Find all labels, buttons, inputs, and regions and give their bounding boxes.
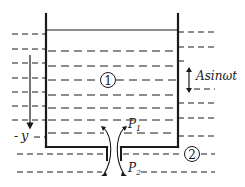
streamline-arrowheads [101,126,127,176]
tank [46,14,178,160]
y-axis-label: y [20,128,29,143]
inside-fluid-lines [48,51,176,133]
arrow-up-icon [186,67,192,72]
pressure-p1-label: P1 [127,117,141,133]
arrow-down-icon [186,88,192,93]
oscillation-label: Asinωt [195,69,237,83]
outside-fluid-lines-right [123,32,215,172]
arrow-bottom-right-icon [121,172,127,176]
tank-diagram: 1 2 Asinωt - y P1 P2 [0,0,245,187]
outside-fluid-lines-left [12,34,105,172]
pressure-p2-label: P2 [127,161,141,177]
region-1-label: 1 [104,74,112,88]
y-axis-prefix: - [14,129,18,143]
arrow-bottom-left-icon [101,172,107,176]
region-2-label: 2 [188,148,196,162]
